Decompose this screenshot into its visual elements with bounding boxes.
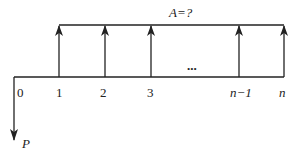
period-label-n-minus-1: n−1 — [230, 85, 252, 100]
period-label-0: 0 — [17, 85, 24, 100]
period-label-3: 3 — [147, 85, 154, 100]
annuity-label: A=? — [168, 5, 193, 20]
present-value-label: P — [21, 136, 30, 151]
period-label-1: 1 — [56, 85, 63, 100]
ellipsis: ... — [187, 58, 197, 73]
period-label-2: 2 — [100, 85, 107, 100]
annuity-arrows — [55, 25, 288, 77]
period-label-n: n — [279, 85, 286, 100]
cash-flow-diagram: A=? ... P 0 1 2 3 n−1 n — [0, 0, 296, 163]
